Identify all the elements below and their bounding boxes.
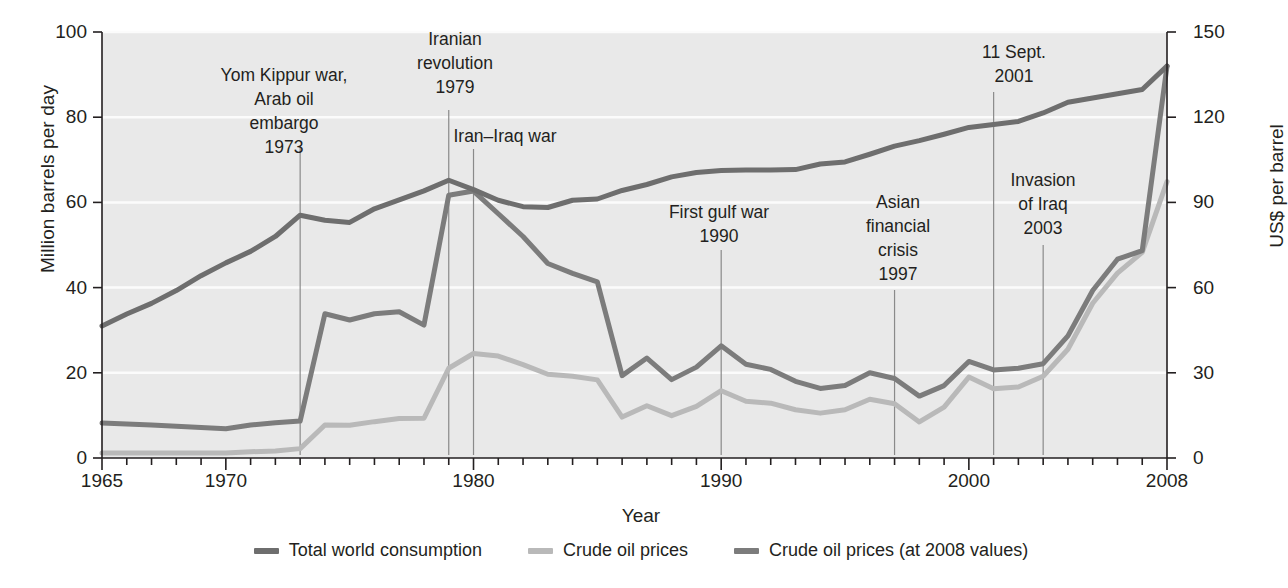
annotation-label-first-gulf-war: First gulf war 1990 [669,200,769,248]
y-tick-label-right: 30 [1193,362,1214,384]
y-tick-label-right: 60 [1193,277,1214,299]
y-tick-label-left: 100 [55,21,87,43]
annotation-label-invasion-of-iraq: Invasion of Iraq 2003 [1010,168,1075,240]
legend-swatch-icon [528,548,553,554]
x-tick-label: 1990 [700,470,742,492]
x-axis-title: Year [0,505,1282,527]
y-tick-label-right: 150 [1193,21,1225,43]
legend-item-0[interactable]: Total world consumption [254,540,482,561]
legend-label: Crude oil prices (at 2008 values) [769,540,1028,561]
annotation-label-yom-kippur: Yom Kippur war, Arab oil embargo 1973 [221,63,348,159]
annotation-label-iranian-revolution: Iranian revolution 1979 [417,27,493,99]
chart-legend: Total world consumptionCrude oil pricesC… [0,540,1282,561]
y-tick-label-left: 60 [66,191,87,213]
legend-item-2[interactable]: Crude oil prices (at 2008 values) [734,540,1028,561]
y-tick-label-left: 40 [66,277,87,299]
y-tick-label-right: 0 [1193,447,1204,469]
legend-item-1[interactable]: Crude oil prices [528,540,688,561]
y-axis-right-title: US$ per barrel [1266,61,1288,311]
legend-label: Total world consumption [289,540,482,561]
annotation-label-11-sept: 11 Sept. 2001 [982,40,1046,88]
annotation-label-iran-iraq-war: Iran–Iraq war [453,124,556,148]
x-tick-label: 1980 [452,470,494,492]
y-tick-label-left: 80 [66,106,87,128]
x-tick-label: 2000 [948,470,990,492]
x-tick-label: 1965 [81,470,123,492]
legend-label: Crude oil prices [563,540,688,561]
x-tick-label: 2008 [1146,470,1188,492]
y-tick-label-left: 20 [66,362,87,384]
y-tick-label-left: 0 [76,447,87,469]
legend-swatch-icon [734,548,759,554]
annotation-label-asian-financial-crisis: Asian financial crisis 1997 [866,190,930,286]
y-axis-left-title: Million barrels per day [37,49,59,309]
legend-swatch-icon [254,548,279,554]
y-tick-label-right: 120 [1193,106,1225,128]
y-tick-label-right: 90 [1193,191,1214,213]
x-tick-label: 1970 [205,470,247,492]
